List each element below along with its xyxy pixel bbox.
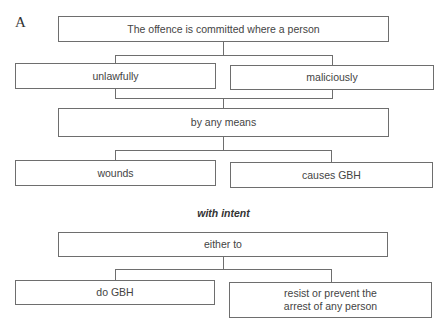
option-maliciously-text: maliciously [306,71,357,84]
either-to-text: either to [204,238,242,251]
with-intent-label: with intent [0,207,447,219]
offence-title-box: The offence is committed where a person [58,16,389,42]
connector-line [115,150,332,151]
option-resist-arrest-box: resist or prevent the arrest of any pers… [229,282,432,318]
connector-line [223,256,224,269]
by-any-means-text: by any means [191,116,256,129]
connector-line [115,88,116,98]
connector-line [115,55,333,56]
option-maliciously-box: maliciously [230,65,434,90]
connector-line [115,98,333,99]
option-do-gbh-box: do GBH [15,280,215,305]
connector-line [223,41,224,55]
connector-line [223,136,224,150]
option-unlawfully-text: unlawfully [92,70,138,83]
option-wounds-box: wounds [15,160,216,186]
option-causes-gbh-text: causes GBH [302,169,361,182]
option-resist-arrest-text: resist or prevent the arrest of any pers… [270,287,391,313]
by-any-means-box: by any means [58,108,389,137]
connector-line [331,269,332,283]
connector-line [332,89,333,98]
connector-line [332,55,333,65]
option-unlawfully-box: unlawfully [15,63,216,89]
offence-title-text: The offence is committed where a person [127,23,319,36]
either-to-box: either to [58,232,388,257]
connector-line [115,269,332,270]
option-do-gbh-text: do GBH [96,286,133,299]
option-causes-gbh-box: causes GBH [230,162,433,188]
figure-label: A [15,14,26,31]
option-wounds-text: wounds [97,167,133,180]
